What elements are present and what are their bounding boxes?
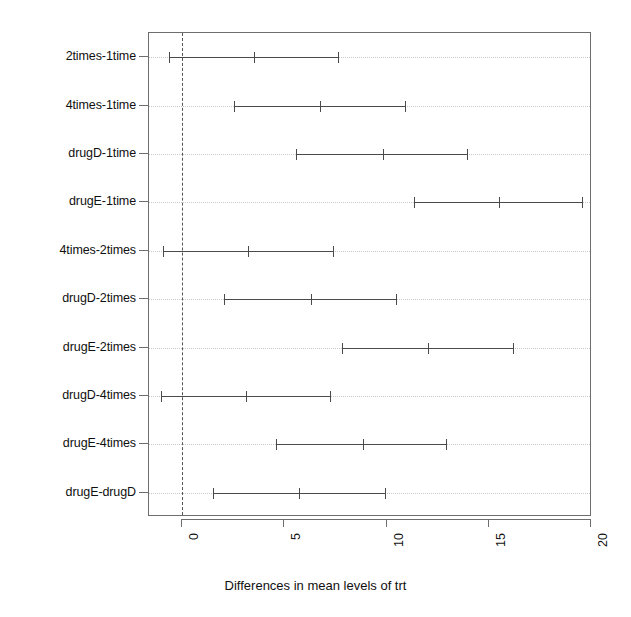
y-axis-label: 4times-2times xyxy=(60,243,137,257)
y-axis-tick xyxy=(139,492,148,493)
interval-lower-cap xyxy=(234,101,235,112)
interval-lower-cap xyxy=(296,149,297,160)
y-axis-label: 2times-1time xyxy=(66,49,136,63)
interval-upper-cap xyxy=(582,197,583,208)
x-axis-tick-label: 5 xyxy=(289,533,303,540)
x-axis-tick-label: 10 xyxy=(392,533,406,547)
y-axis-tick xyxy=(139,201,148,202)
y-axis-tick xyxy=(139,153,148,154)
x-axis-tick xyxy=(181,519,182,527)
y-axis-label: drugE-drugD xyxy=(66,485,136,499)
interval-point-estimate xyxy=(246,391,247,402)
y-axis-label: 4times-1time xyxy=(66,98,136,112)
y-axis-label: drugD-1time xyxy=(68,146,136,160)
x-axis-tick-label: 0 xyxy=(187,533,201,540)
y-axis-label: drugD-2times xyxy=(62,291,136,305)
x-axis-title: Differences in mean levels of trt xyxy=(0,578,631,593)
interval-point-estimate xyxy=(428,343,429,354)
interval-point-estimate xyxy=(499,197,500,208)
interval-upper-cap xyxy=(330,391,331,402)
y-axis-tick xyxy=(139,347,148,348)
y-axis-tick xyxy=(139,250,148,251)
plot-area xyxy=(148,32,591,516)
y-axis-label: drugE-2times xyxy=(63,340,136,354)
tukey-hsd-plot: 2times-1time4times-1timedrugD-1timedrugE… xyxy=(0,0,631,617)
interval-point-estimate xyxy=(383,149,384,160)
chart-title xyxy=(0,2,631,16)
interval-point-estimate xyxy=(254,52,255,63)
y-axis-label: drugE-1time xyxy=(69,194,136,208)
interval-point-estimate xyxy=(311,294,312,305)
y-axis-tick xyxy=(139,105,148,106)
interval-lower-cap xyxy=(224,294,225,305)
interval-point-estimate xyxy=(248,246,249,257)
y-axis-tick xyxy=(139,298,148,299)
y-axis-tick xyxy=(139,443,148,444)
interval-upper-cap xyxy=(513,343,514,354)
y-axis-label: drugE-4times xyxy=(63,436,136,450)
interval-lower-cap xyxy=(163,246,164,257)
interval-lower-cap xyxy=(169,52,170,63)
interval-lower-cap xyxy=(342,343,343,354)
interval-upper-cap xyxy=(333,246,334,257)
x-axis-tick xyxy=(590,519,591,527)
interval-bar xyxy=(276,444,447,445)
interval-point-estimate xyxy=(320,101,321,112)
x-axis-tick-label: 15 xyxy=(494,533,508,547)
y-axis-tick xyxy=(139,56,148,57)
interval-lower-cap xyxy=(161,391,162,402)
y-axis-label: drugD-4times xyxy=(62,388,136,402)
interval-upper-cap xyxy=(385,488,386,499)
interval-upper-cap xyxy=(467,149,468,160)
interval-lower-cap xyxy=(414,197,415,208)
interval-point-estimate xyxy=(299,488,300,499)
x-axis-tick xyxy=(488,519,489,527)
interval-point-estimate xyxy=(363,439,364,450)
x-axis-tick-label: 20 xyxy=(596,533,610,547)
interval-upper-cap xyxy=(405,101,406,112)
interval-upper-cap xyxy=(446,439,447,450)
interval-bar xyxy=(296,154,468,155)
y-axis-labels: 2times-1time4times-1timedrugD-1timedrugE… xyxy=(0,32,136,516)
interval-lower-cap xyxy=(276,439,277,450)
interval-upper-cap xyxy=(396,294,397,305)
interval-lower-cap xyxy=(213,488,214,499)
x-axis-tick xyxy=(386,519,387,527)
interval-upper-cap xyxy=(338,52,339,63)
y-axis-tick xyxy=(139,395,148,396)
x-axis-tick xyxy=(283,519,284,527)
